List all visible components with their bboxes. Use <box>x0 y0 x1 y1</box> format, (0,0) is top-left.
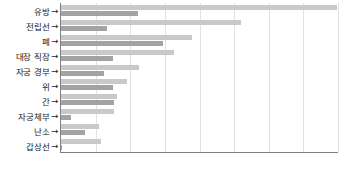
bar-series-1 <box>61 35 192 40</box>
bar-group <box>61 78 338 93</box>
bar-series-2 <box>61 130 85 135</box>
bar-series-2 <box>61 85 113 90</box>
bar-group <box>61 63 338 78</box>
arrow-icon: → <box>51 141 58 151</box>
bar-chart: 유방→전립선→폐→대장 직장→자궁 경부→위→간→자궁체부→난소→갑상선→ <box>0 0 345 169</box>
arrow-icon: → <box>51 96 58 106</box>
category-label-text: 간 <box>42 95 50 107</box>
arrow-icon: → <box>51 21 58 31</box>
bar-series-2 <box>61 145 62 150</box>
bar-group <box>61 107 338 122</box>
category-label: 위→ <box>0 78 60 93</box>
arrow-icon: → <box>51 51 58 61</box>
bar-group <box>61 18 338 33</box>
bar-group <box>61 33 338 48</box>
arrow-icon: → <box>51 6 58 16</box>
plot-area <box>60 3 338 153</box>
bar-series-2 <box>61 100 114 105</box>
category-label: 폐→ <box>0 33 60 48</box>
category-label: 전립선→ <box>0 18 60 33</box>
arrow-icon: → <box>51 126 58 136</box>
category-label-text: 전립선 <box>26 20 49 32</box>
bar-series-1 <box>61 109 114 114</box>
category-label-text: 자궁 경부 <box>16 65 50 77</box>
category-label: 갑상선→ <box>0 138 60 153</box>
arrow-icon: → <box>51 111 58 121</box>
arrow-icon: → <box>51 36 58 46</box>
bar-series-2 <box>61 11 138 16</box>
bar-series-1 <box>61 94 117 99</box>
bar-series-1 <box>61 20 241 25</box>
category-label-text: 난소 <box>34 125 50 137</box>
category-axis-labels: 유방→전립선→폐→대장 직장→자궁 경부→위→간→자궁체부→난소→갑상선→ <box>0 3 60 153</box>
bar-series-2 <box>61 71 104 76</box>
category-label: 대장 직장→ <box>0 48 60 63</box>
bar-series-2 <box>61 26 107 31</box>
bar-group <box>61 3 338 18</box>
bars-layer <box>61 3 338 152</box>
category-label: 유방→ <box>0 3 60 18</box>
bar-group <box>61 137 338 152</box>
bar-series-1 <box>61 124 99 129</box>
category-label: 자궁 경부→ <box>0 63 60 78</box>
bar-series-1 <box>61 5 337 10</box>
arrow-icon: → <box>51 81 58 91</box>
gridline <box>338 3 339 152</box>
category-label-text: 유방 <box>34 5 50 17</box>
bar-series-2 <box>61 115 71 120</box>
bar-series-2 <box>61 41 163 46</box>
bar-group <box>61 48 338 63</box>
category-label-text: 자궁체부 <box>18 110 49 122</box>
category-label: 난소→ <box>0 123 60 138</box>
bar-group <box>61 92 338 107</box>
category-label-text: 대장 직장 <box>16 50 50 62</box>
bar-group <box>61 122 338 137</box>
bar-series-1 <box>61 50 174 55</box>
category-label-text: 폐 <box>42 35 50 47</box>
arrow-icon: → <box>51 66 58 76</box>
bar-series-1 <box>61 139 101 144</box>
bar-series-2 <box>61 56 113 61</box>
category-label: 간→ <box>0 93 60 108</box>
bar-series-1 <box>61 79 127 84</box>
category-label-text: 갑상선 <box>26 140 49 152</box>
category-label: 자궁체부→ <box>0 108 60 123</box>
bar-series-1 <box>61 65 139 70</box>
category-label-text: 위 <box>42 80 50 92</box>
